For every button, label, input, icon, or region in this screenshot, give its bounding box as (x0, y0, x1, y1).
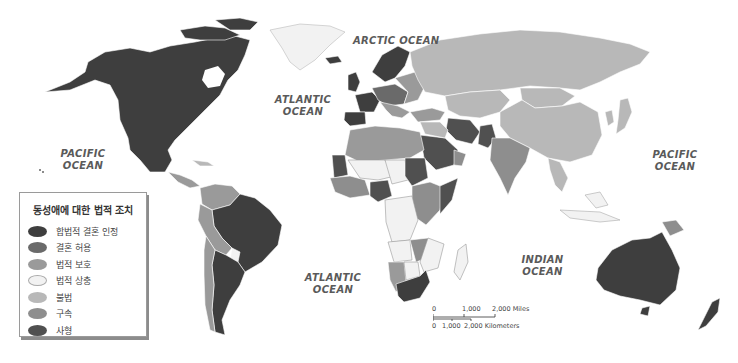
pacific-east-line2: OCEAN (650, 161, 700, 173)
legend-swatch-icon (28, 275, 47, 286)
scale-km-1000: 1,000 (442, 322, 461, 330)
legend-item-union: 결혼 허용 (20, 240, 146, 257)
region-mauritania (332, 155, 348, 178)
region-north-africa (345, 126, 424, 162)
legend-label: 구속 (56, 307, 72, 320)
legend-label: 합법적 결혼 인정 (56, 225, 118, 238)
legend-item-marriage: 합법적 결혼 인정 (20, 223, 146, 240)
legend-item-mixed: 법적 상충 (20, 273, 146, 290)
pacific-east-line1: PACIFIC (650, 149, 700, 161)
legend-label: 사형 (56, 324, 72, 337)
legend-item-death: 사형 (20, 322, 146, 339)
scale-miles-1000: 1,000 (462, 305, 481, 313)
atlantic-south-line2: OCEAN (298, 284, 368, 296)
scale-km-0: 0 (432, 322, 436, 330)
ocean-label-arctic: ARCTIC OCEAN (353, 35, 440, 47)
scale-bar: 0 1,000 2,000 Miles 0 1,000 2,000 Kilome… (432, 305, 542, 335)
ocean-label-pacific-west: PACIFIC OCEAN (58, 148, 108, 172)
pacific-west-line1: PACIFIC (58, 148, 108, 160)
ocean-label-atlantic-south: ATLANTIC OCEAN (298, 272, 368, 296)
atlantic-south-line1: ATLANTIC (298, 272, 368, 284)
legend-swatch-icon (28, 259, 47, 270)
scale-km-2000: 2,000 Kilometers (464, 322, 519, 330)
atlantic-north-line1: ATLANTIC (268, 94, 338, 106)
map-legend: 동성애에 대한 법적 조치 합법적 결혼 인정 결혼 허용 법적 보호 법적 상… (19, 192, 147, 337)
legend-label: 결혼 허용 (56, 241, 91, 254)
arctic-ocean-text: ARCTIC OCEAN (353, 35, 440, 46)
ocean-label-indian: INDIAN OCEAN (515, 254, 570, 278)
scale-ruler-icon (433, 314, 503, 322)
ocean-label-atlantic-north: ATLANTIC OCEAN (268, 94, 338, 118)
legend-swatch-icon (28, 325, 47, 336)
atlantic-north-line2: OCEAN (268, 106, 338, 118)
legend-label: 불법 (56, 291, 72, 304)
legend-swatch-icon (28, 242, 47, 253)
scale-miles-2000: 2,000 Miles (492, 305, 529, 313)
indian-line2: OCEAN (515, 266, 570, 278)
indian-line1: INDIAN (515, 254, 570, 266)
legend-label: 법적 상충 (56, 274, 91, 287)
ocean-label-pacific-east: PACIFIC OCEAN (650, 149, 700, 173)
pacific-west-line2: OCEAN (58, 160, 108, 172)
legend-title: 동성애에 대한 법적 조치 (20, 202, 146, 217)
legend-swatch-icon (28, 292, 47, 303)
scale-miles-0: 0 (432, 305, 436, 313)
legend-swatch-icon (28, 226, 47, 237)
legend-swatch-icon (28, 308, 47, 319)
legend-item-protection: 법적 보호 (20, 256, 146, 273)
legend-item-illegal: 불법 (20, 289, 146, 306)
legend-item-prison: 구속 (20, 306, 146, 323)
legend-label: 법적 보호 (56, 258, 91, 271)
